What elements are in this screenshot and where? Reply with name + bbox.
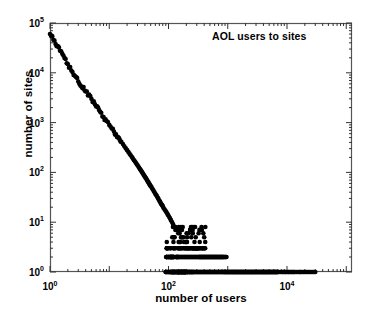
y-tick-label-0: 100 (16, 267, 44, 278)
y-tick-label-4: 104 (16, 67, 44, 78)
x-tick-mantissa-2: 10 (279, 281, 290, 292)
x-tick-exponent-0: 0 (54, 280, 58, 287)
y-tick-exponent-4: 4 (40, 66, 44, 73)
y-tick-exponent-1: 1 (40, 215, 44, 222)
y-tick-exponent-3: 3 (40, 116, 44, 123)
x-tick-label-2: 104 (279, 281, 294, 292)
x-tick-exponent-1: 2 (172, 280, 176, 287)
plot-frame (51, 24, 352, 272)
chart-figure: number of sites number of users AOL user… (0, 0, 368, 317)
y-tick-mantissa-4: 10 (29, 67, 40, 78)
y-tick-label-5: 105 (16, 18, 44, 29)
y-tick-mantissa-1: 10 (29, 217, 40, 228)
y-tick-label-2: 102 (16, 167, 44, 178)
scatter-plot-canvas (0, 0, 368, 317)
y-tick-mantissa-3: 10 (29, 117, 40, 128)
x-tick-exponent-2: 4 (291, 280, 295, 287)
x-tick-mantissa-0: 10 (42, 281, 53, 292)
x-tick-label-1: 102 (161, 281, 176, 292)
y-tick-exponent-5: 5 (40, 16, 44, 23)
y-tick-exponent-0: 0 (40, 265, 44, 272)
y-tick-mantissa-2: 10 (29, 167, 40, 178)
x-tick-label-0: 100 (42, 281, 57, 292)
y-tick-label-1: 101 (16, 217, 44, 228)
y-tick-label-3: 103 (16, 117, 44, 128)
chart-annotation: AOL users to sites (212, 30, 306, 42)
y-axis-label: number of sites (22, 44, 34, 184)
axis-ticks (50, 23, 352, 272)
x-tick-mantissa-1: 10 (161, 281, 172, 292)
y-tick-mantissa-0: 10 (29, 267, 40, 278)
y-tick-exponent-2: 2 (40, 166, 44, 173)
y-tick-mantissa-5: 10 (29, 18, 40, 29)
x-axis-label: number of users (50, 292, 352, 304)
data-points (48, 32, 318, 275)
